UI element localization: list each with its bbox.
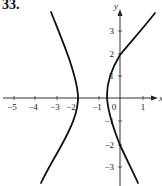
- x-tick-label: 0: [112, 102, 117, 112]
- x-tick-label: −5: [7, 102, 17, 112]
- y-tick-labels: 3 2 1 −1 −2 −3: [104, 26, 114, 172]
- y-axis-label: y: [113, 1, 118, 11]
- x-tick-label: 1: [141, 102, 146, 112]
- y-tick-label: −2: [104, 140, 114, 150]
- y-tick-label: −3: [104, 162, 114, 172]
- x-axis-label: x: [158, 93, 162, 103]
- hyperbola-plot: x y −5 −4 −3 −2 −1 0 1 3 2 1 −1 −2 −3: [0, 0, 162, 186]
- y-tick-label: 3: [110, 26, 115, 36]
- x-tick-label: −4: [28, 102, 38, 112]
- x-axis-arrow-icon: [151, 96, 158, 101]
- x-tick-label: −3: [50, 102, 60, 112]
- y-axis-arrow-icon: [118, 9, 123, 16]
- x-tick-label: −1: [92, 102, 102, 112]
- x-tick-label: −2: [66, 102, 76, 112]
- y-tick-label: 2: [110, 49, 115, 59]
